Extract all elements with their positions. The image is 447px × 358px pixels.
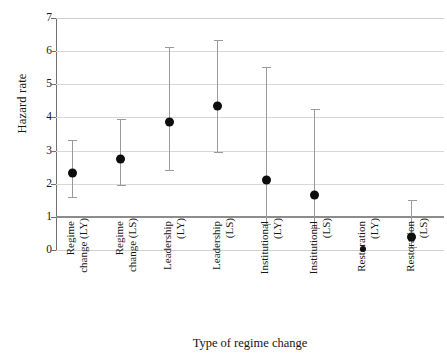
error-bar-cap-upper	[214, 40, 223, 41]
error-bar	[120, 119, 121, 185]
error-bar-cap-upper	[117, 119, 126, 120]
error-bar	[266, 67, 267, 224]
y-tick-label: 5	[34, 79, 52, 91]
y-tick-mark	[51, 84, 56, 85]
data-point	[213, 102, 222, 111]
x-tick-label-line: Regime	[64, 221, 77, 299]
data-point	[165, 118, 174, 127]
x-tick-label-line: (LS)	[417, 218, 430, 296]
hazard-rate-chart: Hazard rate 01234567 Regimechange (LY)Re…	[0, 0, 447, 358]
x-tick-label-line: Leadership	[161, 221, 174, 299]
error-bar-cap-upper	[262, 67, 271, 68]
y-tick-mark	[51, 117, 56, 118]
data-point	[310, 190, 319, 199]
error-bar-cap-upper	[408, 200, 417, 201]
x-tick-label-line: Institutional	[307, 221, 320, 299]
error-bar-cap-lower	[117, 185, 126, 186]
error-bar-cap-upper	[68, 140, 77, 141]
y-tick-mark	[51, 151, 56, 152]
x-tick-label-line: Restoration	[355, 221, 368, 299]
y-tick-mark	[51, 250, 56, 251]
gridline-y-6	[56, 51, 444, 52]
error-bar-cap-upper	[311, 109, 320, 110]
x-axis-tick-labels: Regimechange (LY)Regimechange (LS)Leader…	[56, 252, 444, 330]
x-tick-label-line: Regime	[113, 221, 126, 299]
error-bar-cap-lower	[68, 197, 77, 198]
y-tick-label: 4	[34, 112, 52, 124]
y-axis-title: Hazard rate	[15, 44, 30, 164]
gridline-y-4	[56, 117, 444, 118]
x-axis-title: Type of regime change	[56, 336, 444, 351]
error-bar-cap-lower	[214, 152, 223, 153]
reference-line	[56, 216, 444, 218]
gridline-y-3	[56, 151, 444, 152]
gridline-y-5	[56, 84, 444, 85]
data-point	[262, 175, 271, 184]
x-tick-label-line: Institutional	[258, 221, 271, 299]
error-bar-cap-lower	[165, 170, 174, 171]
gridline-y-2	[56, 184, 444, 185]
y-tick-mark	[51, 51, 56, 52]
error-bar	[169, 47, 170, 170]
y-tick-label: 7	[34, 12, 52, 24]
y-tick-label: 1	[34, 211, 52, 223]
y-tick-mark	[51, 184, 56, 185]
data-point	[116, 155, 125, 164]
y-axis-tick-labels: 01234567	[34, 12, 52, 256]
error-bar	[314, 109, 315, 228]
y-tick-label: 2	[34, 178, 52, 190]
error-bar-cap-upper	[165, 47, 174, 48]
y-tick-mark	[51, 18, 56, 19]
y-tick-label: 3	[34, 145, 52, 157]
error-bar	[217, 40, 218, 152]
plot-area	[56, 18, 444, 250]
gridline-y-7	[56, 18, 444, 19]
x-tick-label: Restoration(LS)	[373, 252, 447, 268]
y-tick-mark	[51, 217, 56, 218]
data-point	[68, 169, 77, 178]
x-tick-label-line: Leadership	[210, 221, 223, 299]
y-tick-label: 6	[34, 45, 52, 57]
x-tick-label-line: Restoration	[404, 221, 417, 299]
